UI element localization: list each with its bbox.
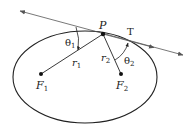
angle-theta1-arc [76,27,79,50]
label-r1: r1 [72,57,81,70]
radius-r1 [41,34,103,74]
label-theta1: θ1 [65,37,76,50]
label-F2: F2 [115,79,128,93]
label-P: P [98,19,107,32]
label-theta2: θ2 [124,55,135,68]
focus-F2-dot [119,72,123,76]
ellipse-curve [13,31,157,123]
label-r2: r2 [101,52,110,65]
label-T: T [127,26,134,37]
ellipse-diagram: P T θ1 θ2 r1 r2 F1 F2 [0,0,193,126]
focus-F1-dot [39,72,43,76]
label-F1: F1 [35,79,48,93]
point-P-dot [101,32,105,36]
